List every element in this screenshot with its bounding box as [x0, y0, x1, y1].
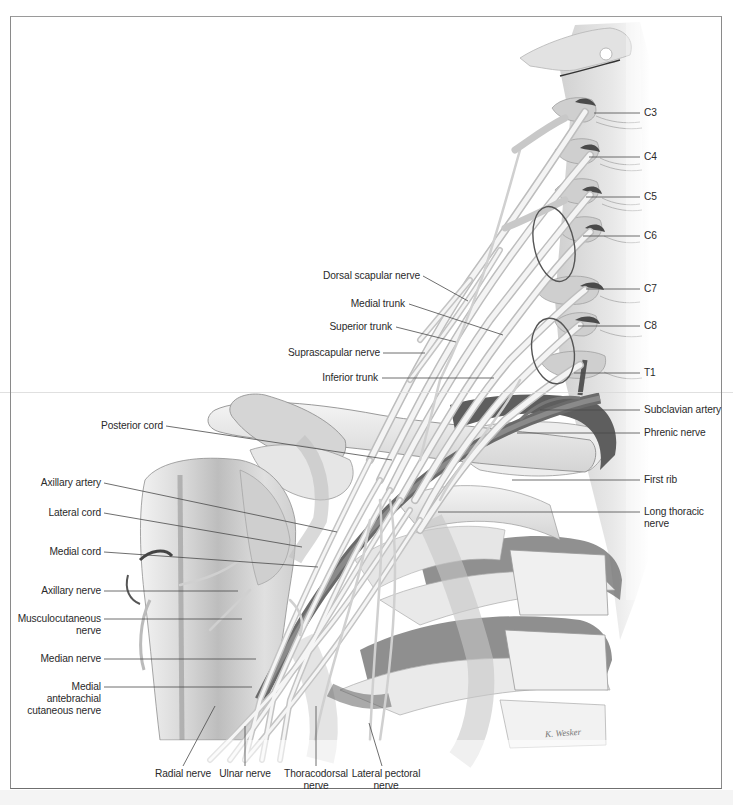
- label-c3: C3: [644, 107, 657, 119]
- label-superior-trunk: Superior trunk: [329, 321, 392, 333]
- label-median-nerve: Median nerve: [40, 653, 101, 665]
- label-c7: C7: [644, 283, 657, 295]
- label-medial-trunk: Medial trunk: [351, 298, 405, 310]
- label-axillary-nerve: Axillary nerve: [41, 585, 101, 597]
- label-radial-nerve: Radial nerve: [148, 768, 218, 780]
- label-medial-cord: Medial cord: [49, 546, 101, 558]
- label-medial-antebrachial-cutaneous-nerve: Medial antebrachial cutaneous nerve: [27, 681, 101, 717]
- label-c8: C8: [644, 320, 657, 332]
- label-posterior-cord: Posterior cord: [101, 420, 163, 432]
- label-c4: C4: [644, 151, 657, 163]
- figure-canvas: C3 C4 C5 C6 C7 C8 T1 Subclavian artery P…: [0, 0, 733, 805]
- label-lateral-pectoral-nerve: Lateral pectoral nerve: [343, 768, 429, 792]
- label-t1: T1: [644, 367, 656, 379]
- label-suprascapular-nerve: Suprascapular nerve: [288, 347, 380, 359]
- label-c5: C5: [644, 191, 657, 203]
- label-axillary-artery: Axillary artery: [41, 477, 101, 489]
- label-long-thoracic-nerve: Long thoracic nerve: [644, 506, 704, 530]
- figure-frame: [10, 16, 722, 789]
- label-c6: C6: [644, 230, 657, 242]
- label-ulnar-nerve: Ulnar nerve: [215, 768, 275, 780]
- label-lateral-cord: Lateral cord: [48, 507, 101, 519]
- label-dorsal-scapular-nerve: Dorsal scapular nerve: [323, 270, 420, 282]
- label-musculocutaneous-nerve: Musculocutaneous nerve: [18, 613, 101, 637]
- label-inferior-trunk: Inferior trunk: [322, 372, 378, 384]
- label-subclavian-artery: Subclavian artery: [644, 404, 721, 416]
- label-first-rib: First rib: [644, 474, 677, 486]
- label-phrenic-nerve: Phrenic nerve: [644, 427, 706, 439]
